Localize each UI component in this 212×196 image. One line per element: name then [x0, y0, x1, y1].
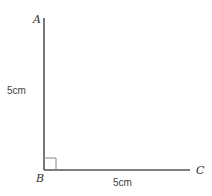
measurement-bc: 5cm	[113, 177, 132, 188]
measurement-ab: 5cm	[7, 85, 26, 96]
right-angle-marker	[44, 158, 56, 170]
vertex-label-c: C	[196, 164, 205, 177]
vertex-label-b: B	[35, 172, 44, 185]
vertex-label-a: A	[32, 13, 41, 26]
right-angle-diagram: A B C 5cm 5cm	[0, 0, 212, 196]
